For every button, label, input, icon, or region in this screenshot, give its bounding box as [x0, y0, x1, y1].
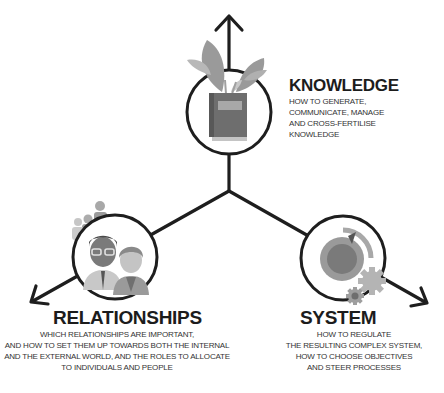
system-node	[301, 216, 386, 305]
knowledge-description: HOW TO GENERATE, COMMUNICATE, MANAGE AND…	[289, 96, 384, 140]
description-line: AND CROSS-FERTILISE	[289, 118, 384, 129]
knowledge-title: KNOWLEDGE	[289, 76, 399, 96]
description-line: HOW TO CHOOSE OBJECTIVES	[262, 351, 444, 362]
relationships-description: WHICH RELATIONSHIPS ARE IMPORTANT, AND H…	[0, 329, 234, 373]
description-line: HOW TO GENERATE,	[289, 96, 384, 107]
description-line: TO INDIVIDUALS AND PEOPLE	[0, 362, 234, 373]
description-line: WHICH RELATIONSHIPS ARE IMPORTANT,	[0, 329, 234, 340]
relationships-node	[72, 201, 157, 299]
description-line: HOW TO REGULATE	[262, 329, 444, 340]
description-line: COMMUNICATE, MANAGE	[289, 107, 384, 118]
description-line: THE RESULTING COMPLEX SYSTEM,	[262, 340, 444, 351]
system-title: SYSTEM	[300, 307, 376, 329]
relationships-title: RELATIONSHIPS	[53, 307, 202, 329]
system-description: HOW TO REGULATE THE RESULTING COMPLEX SY…	[262, 329, 444, 373]
description-line: AND STEER PROCESSES	[262, 362, 444, 373]
description-line: KNOWLEDGE	[289, 129, 384, 140]
description-line: AND HOW TO SET THEM UP TOWARDS BOTH THE …	[0, 340, 234, 351]
description-line: AND THE EXTERNAL WORLD, AND THE ROLES TO…	[0, 351, 234, 362]
